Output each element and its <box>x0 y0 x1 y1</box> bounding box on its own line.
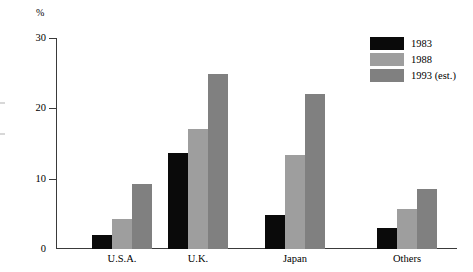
bar <box>208 74 228 249</box>
bar <box>168 153 188 249</box>
bar-group <box>92 38 152 249</box>
bar-chart: % 0102030 U.S.A.U.K.JapanOthers 19831988… <box>0 0 473 272</box>
legend-label: 1988 <box>411 54 432 65</box>
bar-group <box>265 38 325 249</box>
y-tick: 20 <box>0 108 46 109</box>
scan-artifact <box>0 102 5 104</box>
legend-item: 1993 (est.) <box>370 68 456 82</box>
bar <box>92 235 112 249</box>
bar-group <box>168 38 228 249</box>
y-tick-label: 10 <box>16 174 46 185</box>
y-tick: 10 <box>0 179 46 180</box>
y-tick-label: 0 <box>16 244 46 255</box>
y-tick: 30 <box>0 38 46 39</box>
legend-swatch <box>370 53 404 66</box>
legend-item: 1988 <box>370 52 456 66</box>
bar <box>397 209 417 249</box>
legend-swatch <box>370 69 404 82</box>
chart-legend: 198319881993 (est.) <box>370 36 456 84</box>
bar <box>265 215 285 249</box>
y-axis-unit-label: % <box>36 7 45 18</box>
legend-label: 1993 (est.) <box>411 70 456 81</box>
legend-label: 1983 <box>411 38 432 49</box>
y-tick-label: 30 <box>16 33 46 44</box>
category-label: Others <box>362 253 452 264</box>
bar <box>377 228 397 249</box>
category-label: U.K. <box>153 253 243 264</box>
bar <box>417 189 437 249</box>
bar <box>132 184 152 249</box>
category-label: Japan <box>250 253 340 264</box>
bar <box>112 219 132 249</box>
y-tick: 0 <box>0 249 46 250</box>
y-tick-label: 20 <box>16 103 46 114</box>
bar <box>188 129 208 249</box>
bar <box>285 155 305 249</box>
scan-artifact <box>0 133 5 135</box>
y-tick-mark <box>49 38 56 39</box>
y-tick-mark <box>49 179 56 180</box>
bar <box>305 94 325 249</box>
y-tick-mark <box>49 108 56 109</box>
legend-item: 1983 <box>370 36 456 50</box>
legend-swatch <box>370 37 404 50</box>
